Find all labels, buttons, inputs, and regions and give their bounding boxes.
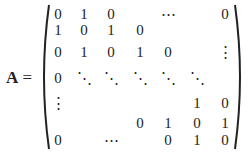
matrix-cell: 0 — [136, 23, 144, 38]
matrix-cell: 0 — [54, 45, 62, 60]
matrix-cell: 0 — [164, 45, 172, 60]
matrix-cell: 0 — [54, 133, 62, 148]
matrix-cell: 0 — [221, 96, 229, 111]
matrix-cell: 0 — [193, 116, 201, 131]
matrix-cell: ⋱ — [133, 71, 148, 86]
matrix-cell: 0 — [54, 7, 62, 22]
matrix-cell: 1 — [80, 45, 88, 60]
matrix-cell: ⋯ — [104, 133, 119, 148]
matrix-cell: ⋱ — [104, 71, 119, 86]
matrix-cell: ⋯ — [161, 7, 176, 22]
left-parenthesis — [38, 4, 50, 150]
matrix-cell: 1 — [54, 23, 62, 38]
matrix-cell: 1 — [164, 116, 172, 131]
matrix-label: A = — [6, 68, 32, 88]
matrix-cell: 0 — [107, 45, 115, 60]
matrix-cell: 1 — [193, 96, 201, 111]
matrix-cell: ⋮ — [218, 45, 233, 60]
right-parenthesis — [234, 4, 246, 150]
matrix-cell: 0 — [136, 116, 144, 131]
matrix-cell: 0 — [80, 23, 88, 38]
matrix-cell: 0 — [221, 133, 229, 148]
matrix-cell: 0 — [164, 133, 172, 148]
matrix-cell: ⋱ — [77, 71, 92, 86]
matrix-cell: 1 — [107, 23, 115, 38]
matrix-cell: ⋱ — [190, 71, 205, 86]
matrix-cell: ⋮ — [51, 96, 66, 111]
matrix-cell: 0 — [107, 7, 115, 22]
matrix-cell: 1 — [80, 7, 88, 22]
matrix-cell: 1 — [136, 45, 144, 60]
matrix-cell: ⋱ — [161, 71, 176, 86]
matrix-cell: 1 — [221, 116, 229, 131]
matrix-cell: 0 — [221, 7, 229, 22]
matrix-cell: 0 — [54, 71, 62, 86]
matrix-cell: 1 — [193, 133, 201, 148]
